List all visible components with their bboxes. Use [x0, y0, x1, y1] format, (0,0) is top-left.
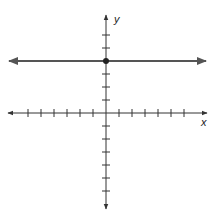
intercept-point — [103, 58, 109, 64]
y-axis-label: y — [113, 13, 121, 25]
y-axis — [102, 15, 110, 209]
x-axis-label: x — [200, 116, 207, 128]
graph-svg: y x — [0, 0, 216, 216]
coordinate-plane: y x — [0, 0, 216, 216]
x-axis — [8, 109, 207, 117]
